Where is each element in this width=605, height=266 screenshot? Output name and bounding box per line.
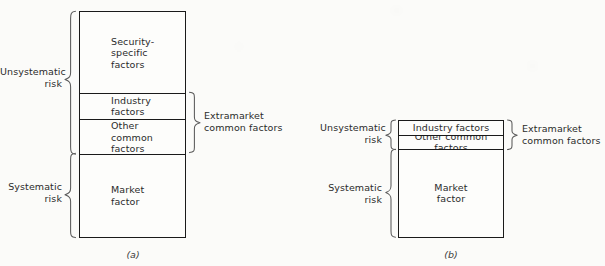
panel-a: Unsystematic risk Systematic risk Securi…	[0, 0, 300, 266]
panel-b-segment-other-common: Other common factors	[399, 135, 503, 149]
panel-b-segment-industry: Industry factors	[399, 121, 503, 135]
panel-a-segment-label-other-common: Other common factors	[111, 120, 153, 154]
panel-a-segment-label-market: Market factor	[111, 184, 144, 207]
panel-a-caption: (a)	[106, 249, 160, 260]
panel-b: Unsystematic risk Systematic risk Indust…	[300, 0, 594, 266]
panel-b-caption: (b)	[424, 249, 478, 260]
panel-a-segment-label-industry: Industry factors	[111, 95, 151, 118]
panel-a-brace-unsystematic	[63, 10, 77, 156]
panel-a-segment-market: Market factor	[80, 154, 185, 237]
panel-a-brace-extramarket	[188, 91, 202, 155]
panel-b-segment-label-market: Market factor	[399, 182, 503, 205]
panel-a-segment-security-specific: Security- specific factors	[80, 12, 185, 93]
panel-a-segment-other-common: Other common factors	[80, 119, 185, 154]
panel-b-segment-label-other-common: Other common factors	[399, 135, 503, 149]
panel-b-brace-unsystematic	[384, 119, 397, 151]
panel-a-label-extramarket: Extramarket common factors	[204, 110, 296, 134]
panel-b-brace-systematic	[384, 148, 397, 240]
panel-b-segment-label-industry: Industry factors	[399, 122, 503, 134]
panel-a-label-unsystematic-risk: Unsystematic risk	[0, 66, 62, 90]
panel-a-segment-industry: Industry factors	[80, 93, 185, 119]
panel-a-stack: Security- specific factors Industry fact…	[79, 11, 186, 238]
panel-b-stack: Industry factors Other common factors Ma…	[398, 120, 504, 238]
panel-b-brace-extramarket	[506, 119, 519, 151]
panel-a-brace-systematic	[63, 152, 77, 240]
panel-a-segment-label-security-specific: Security- specific factors	[111, 35, 154, 70]
panel-b-label-systematic-risk: Systematic risk	[320, 182, 382, 206]
panel-b-segment-market: Market factor	[399, 149, 503, 237]
panel-b-label-extramarket: Extramarket common factors	[522, 123, 605, 147]
panel-b-label-unsystematic-risk: Unsystematic risk	[320, 122, 382, 146]
panel-a-label-systematic-risk: Systematic risk	[0, 181, 62, 205]
